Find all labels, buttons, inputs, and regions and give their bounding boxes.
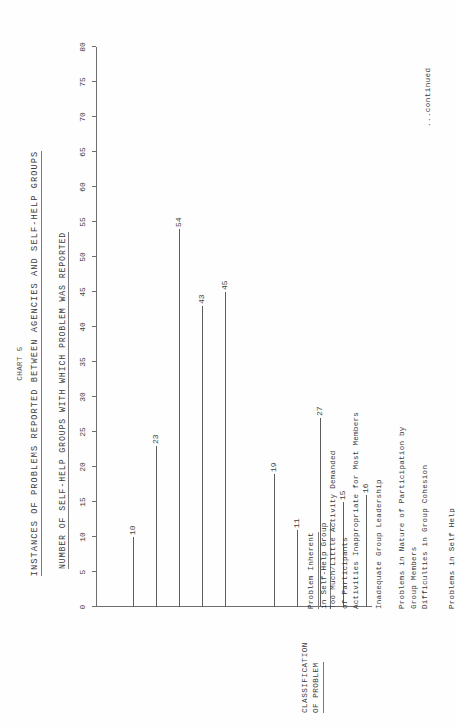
category-section-heading: Problems in Self HelpGroup-Agency Relati… bbox=[447, 489, 455, 609]
x-axis-tick: 70 bbox=[78, 112, 87, 122]
bar-value-label: 11 bbox=[292, 518, 301, 530]
continued-note: ...continued bbox=[424, 68, 432, 127]
bar bbox=[179, 229, 180, 607]
x-axis-tick: 20 bbox=[78, 462, 87, 472]
category-section-heading-line: Problems in Self Help bbox=[447, 508, 455, 609]
bar-row: 10 bbox=[133, 47, 134, 607]
bar-row: 45 bbox=[225, 47, 226, 607]
x-axis-tick: 80 bbox=[78, 42, 87, 52]
bar-row: 54 bbox=[179, 47, 180, 607]
bar bbox=[366, 495, 367, 607]
bar bbox=[133, 537, 134, 607]
bar-value-label: 54 bbox=[174, 217, 183, 229]
x-axis-tick: 60 bbox=[78, 182, 87, 192]
bar-value-label: 43 bbox=[197, 294, 206, 306]
bar-row: 11 bbox=[297, 47, 298, 607]
x-axis-tick: 35 bbox=[78, 357, 87, 367]
bar-value-label: 27 bbox=[315, 406, 324, 418]
x-axis-tick: 30 bbox=[78, 392, 87, 402]
classification-header: CLASSIFICATION OF PROBLEM bbox=[300, 642, 324, 713]
classification-header-line2: OF PROBLEM bbox=[311, 662, 324, 713]
classification-header-line1: CLASSIFICATION bbox=[300, 642, 311, 713]
category-label: Problems in Nature of Participation by G… bbox=[397, 426, 420, 609]
x-axis-tick: 50 bbox=[78, 252, 87, 262]
x-axis-tick: 45 bbox=[78, 287, 87, 297]
bar-row: 16 bbox=[366, 47, 367, 607]
bar-value-label: 10 bbox=[128, 525, 137, 537]
bar bbox=[274, 474, 275, 607]
x-axis-tick: 15 bbox=[78, 497, 87, 507]
bar-row: 19 bbox=[274, 47, 275, 607]
bar-row: 23 bbox=[156, 47, 157, 607]
bar-value-label: 23 bbox=[151, 434, 160, 446]
bar-value-label: 45 bbox=[220, 280, 229, 292]
bar bbox=[156, 446, 157, 607]
x-axis-title-text: NUMBER OF SELF-HELP GROUPS WITH WHICH PR… bbox=[58, 232, 69, 569]
x-axis-tick: 25 bbox=[78, 427, 87, 437]
category-label: Too Much/Little Activity Demanded of Par… bbox=[328, 450, 351, 609]
x-axis-title: NUMBER OF SELF-HELP GROUPS WITH WHICH PR… bbox=[58, 232, 67, 569]
x-axis-tick: 65 bbox=[78, 147, 87, 157]
bar bbox=[297, 530, 298, 607]
category-label: Difficulties in Group Cohesion bbox=[420, 465, 432, 609]
chart-number-label: CHART 5 bbox=[16, 0, 24, 727]
x-axis-tick: 55 bbox=[78, 217, 87, 227]
x-axis-tick: 10 bbox=[78, 532, 87, 542]
x-axis-tick-labels: 05101520253035404550556065707580 bbox=[78, 47, 92, 607]
x-axis-tick: 40 bbox=[78, 322, 87, 332]
bar bbox=[225, 292, 226, 607]
x-axis-tick: 5 bbox=[78, 570, 87, 575]
category-label: Activities Inappropriate for Most Member… bbox=[351, 412, 363, 609]
x-axis-tick: 75 bbox=[78, 77, 87, 87]
x-axis-tick: 0 bbox=[78, 605, 87, 610]
document-sheet: CHART 5 INSTANCES OF PROBLEMS REPORTED B… bbox=[0, 0, 455, 727]
rotated-page-wrapper: CHART 5 INSTANCES OF PROBLEMS REPORTED B… bbox=[0, 0, 455, 727]
page-title-text: INSTANCES OF PROBLEMS REPORTED BETWEEN A… bbox=[30, 151, 42, 576]
category-label: Inadequate Group Leadership bbox=[374, 479, 386, 609]
bar-row: 43 bbox=[202, 47, 203, 607]
bar-value-label: 19 bbox=[269, 462, 278, 474]
bar bbox=[202, 306, 203, 607]
page-title: INSTANCES OF PROBLEMS REPORTED BETWEEN A… bbox=[30, 0, 40, 727]
category-section-heading-line: Problem Inherent bbox=[306, 532, 319, 609]
